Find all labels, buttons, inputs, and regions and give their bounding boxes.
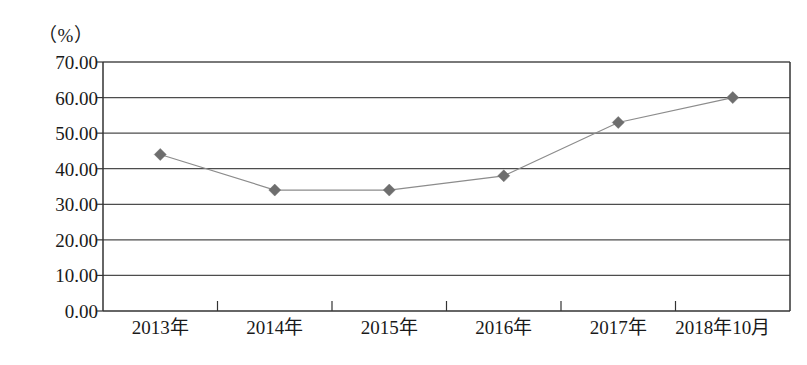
x-axis-tick-label: 2015年 (361, 317, 418, 339)
x-axis-ticks (218, 301, 676, 311)
data-point-marker (269, 184, 281, 196)
x-axis-tick-label: 2018年10月 (675, 317, 770, 339)
data-point-marker (612, 116, 624, 128)
data-line (160, 98, 733, 190)
x-axis-tick-label: 2014年 (246, 317, 303, 339)
chart-figure: （%） 0.0010.0020.0030.0040.0050.0060.0070… (0, 0, 807, 365)
x-axis-tick-label: 2013年 (132, 317, 189, 339)
x-axis-tick-label: 2016年 (475, 317, 532, 339)
data-point-marker (154, 148, 166, 160)
plot-area (0, 0, 807, 365)
x-axis-tick-label: 2017年 (590, 317, 647, 339)
data-point-marker (727, 92, 739, 104)
axis-frame (97, 62, 790, 311)
data-point-marker (498, 170, 510, 182)
data-point-marker (383, 184, 395, 196)
